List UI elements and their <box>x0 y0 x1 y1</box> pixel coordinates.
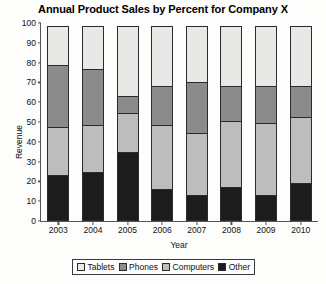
x-tick-label: 2005 <box>118 225 137 235</box>
y-axis-label: Revenue <box>14 125 24 159</box>
legend-item-label: Other <box>229 262 250 272</box>
x-tick-mark <box>300 221 301 225</box>
stacked-bar-chart: Annual Product Sales by Percent for Comp… <box>0 0 326 284</box>
x-tick-mark <box>231 221 232 225</box>
legend-item[interactable]: Computers <box>162 262 214 272</box>
x-tick-label: 2007 <box>187 225 206 235</box>
x-tick-label: 2006 <box>153 225 172 235</box>
legend-swatch-icon <box>77 263 85 271</box>
legend-item[interactable]: Phones <box>119 262 158 272</box>
legend-item[interactable]: Other <box>218 262 250 272</box>
plot-area: 0102030405060708090100 20032004200520062… <box>40 23 318 222</box>
legend-swatch-icon <box>162 263 170 271</box>
x-tick-label: 2003 <box>49 225 68 235</box>
chart-legend: TabletsPhonesComputersOther <box>72 259 255 275</box>
x-axis: 20032004200520062007200820092010 <box>41 23 318 221</box>
legend-swatch-icon <box>218 263 226 271</box>
x-tick-label: 2010 <box>291 225 310 235</box>
legend-item-label: Phones <box>129 262 158 272</box>
x-tick-mark <box>127 221 128 225</box>
legend-item[interactable]: Tablets <box>77 262 114 272</box>
x-tick-label: 2009 <box>257 225 276 235</box>
x-tick-mark <box>196 221 197 225</box>
x-tick-mark <box>58 221 59 225</box>
x-axis-label: Year <box>40 240 318 250</box>
x-tick-mark <box>265 221 266 225</box>
legend-item-label: Computers <box>173 262 215 272</box>
x-tick-label: 2004 <box>83 225 102 235</box>
legend-swatch-icon <box>119 263 127 271</box>
x-tick-label: 2008 <box>222 225 241 235</box>
x-tick-mark <box>92 221 93 225</box>
chart-title: Annual Product Sales by Percent for Comp… <box>0 3 326 15</box>
legend-item-label: Tablets <box>88 262 115 272</box>
x-tick-mark <box>162 221 163 225</box>
